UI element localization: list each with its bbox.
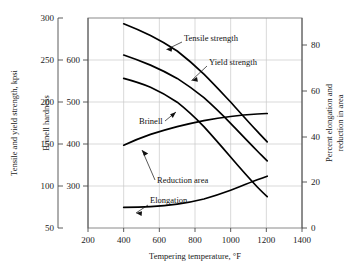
right-tick-40: 40: [311, 132, 321, 142]
x-tick-600: 600: [153, 235, 167, 245]
x-tick-1000: 1000: [222, 235, 241, 245]
label-elongation: Elongation: [150, 195, 188, 205]
x-axis-title: Tempering temperature, °F: [149, 251, 241, 261]
left-inner-tick-400: 400: [67, 139, 81, 149]
left-inner-axis-title: Brinell hardness: [41, 95, 51, 150]
chart-figure: 300 250 200 150 100 50 Tensile and yield…: [0, 0, 354, 273]
left-outer-axis-title: Tensile and yield strength, kpsi: [9, 69, 19, 176]
right-tick-60: 60: [311, 86, 321, 96]
x-axis: 200 400 600 800 1000 1200 1400 Tempering…: [81, 228, 311, 261]
right-tick-80: 80: [311, 40, 321, 50]
left-outer-tick-50: 50: [45, 223, 55, 233]
x-tick-400: 400: [117, 235, 131, 245]
left-outer-tick-250: 250: [41, 55, 55, 65]
right-tick-0: 0: [311, 223, 316, 233]
right-axis: 80 60 40 20 0 Percent elongation and red…: [302, 18, 345, 233]
left-outer-tick-300: 300: [41, 13, 55, 23]
right-axis-title-line2: reduction in area: [335, 94, 345, 151]
left-inner-axis: 600 500 400 300 Brinell hardness: [41, 18, 88, 228]
label-reduction-area: Reduction area: [157, 175, 208, 185]
left-inner-tick-300: 300: [67, 181, 81, 191]
left-inner-tick-500: 500: [67, 97, 81, 107]
right-axis-title-line1: Percent elongation and: [324, 83, 334, 162]
x-tick-800: 800: [188, 235, 202, 245]
left-outer-tick-100: 100: [41, 181, 55, 191]
label-brinell: Brinell: [139, 116, 163, 126]
right-tick-20: 20: [311, 177, 321, 187]
left-inner-tick-600: 600: [67, 55, 81, 65]
left-outer-axis: 300 250 200 150 100 50 Tensile and yield…: [9, 13, 63, 233]
label-tensile-strength: Tensile strength: [184, 33, 239, 43]
x-tick-1400: 1400: [293, 235, 312, 245]
chart-canvas: 300 250 200 150 100 50 Tensile and yield…: [0, 0, 354, 273]
x-tick-200: 200: [81, 235, 95, 245]
label-yield-strength: Yield strength: [209, 57, 258, 67]
x-tick-1200: 1200: [257, 235, 276, 245]
